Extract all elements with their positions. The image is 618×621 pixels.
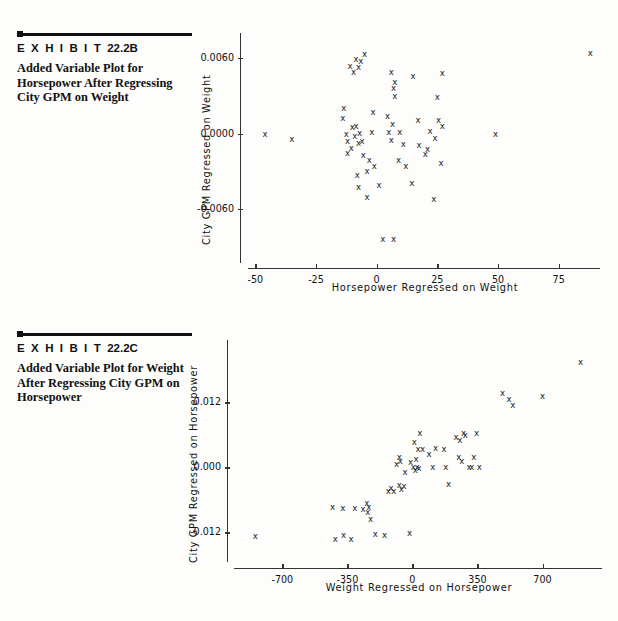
x-tick <box>477 564 478 569</box>
y-axis-line-2 <box>227 340 228 562</box>
scatter-point: x <box>341 531 346 540</box>
y-tick <box>225 467 230 468</box>
scatter-point: x <box>349 535 354 544</box>
x-tick-label: 700 <box>518 574 568 585</box>
scatter-point: x <box>469 462 474 471</box>
plot-area-2: City GPM Regressed on Horsepower Weight … <box>0 0 618 621</box>
y-tick-label: -0.012 <box>165 526 221 537</box>
scatter-point: x <box>330 502 335 511</box>
scatter-point: x <box>443 462 448 471</box>
scatter-point: x <box>402 468 407 477</box>
scatter-point: x <box>433 444 438 453</box>
chart-22-2c: City GPM Regressed on Horsepower Weight … <box>0 0 618 621</box>
scatter-point: x <box>416 463 421 472</box>
scatter-point: x <box>500 389 505 398</box>
scatter-point: x <box>391 487 396 496</box>
y-tick <box>225 532 230 533</box>
x-tick-label: 0 <box>387 574 437 585</box>
scatter-point: x <box>540 392 545 401</box>
scatter-point: x <box>368 515 373 524</box>
scatter-point: x <box>578 358 583 367</box>
x-tick <box>543 564 544 569</box>
y-tick <box>225 402 230 403</box>
scatter-point: x <box>253 532 258 541</box>
x-tick-label: -350 <box>322 574 372 585</box>
scatter-point: x <box>463 431 468 440</box>
scatter-point: x <box>382 531 387 540</box>
y-tick-label: 0.000 <box>165 461 221 472</box>
scatter-point: x <box>474 429 479 438</box>
x-tick <box>282 564 283 569</box>
scatter-point: x <box>510 401 515 410</box>
x-axis-line-2 <box>234 568 602 569</box>
scatter-point: x <box>402 482 407 491</box>
y-tick-label: 0.012 <box>165 396 221 407</box>
scatter-point: x <box>477 462 482 471</box>
scatter-point: x <box>430 463 435 472</box>
scatter-point: x <box>417 428 422 437</box>
scatter-point: x <box>446 480 451 489</box>
x-tick <box>347 564 348 569</box>
scatter-point: x <box>420 445 425 454</box>
x-tick-label: -700 <box>257 574 307 585</box>
x-tick-label: 350 <box>452 574 502 585</box>
scatter-point: x <box>407 529 412 538</box>
scatter-point: x <box>340 504 345 513</box>
scatter-point: x <box>352 504 357 513</box>
scatter-point: x <box>427 449 432 458</box>
scatter-point: x <box>333 534 338 543</box>
scatter-point: x <box>459 457 464 466</box>
scatter-point: x <box>373 530 378 539</box>
scatter-point: x <box>398 456 403 465</box>
scatter-point: x <box>471 452 476 461</box>
scatter-point: x <box>441 445 446 454</box>
x-tick <box>412 564 413 569</box>
